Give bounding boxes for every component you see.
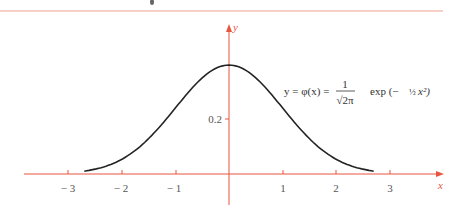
formula-numerator: 1 (342, 78, 348, 90)
formula-half: ½ (409, 87, 416, 97)
x-tick-label: − 1 (167, 182, 181, 194)
formula-annotation: y = φ(x) = 1 √2π exp (− ½ x²) (284, 78, 430, 106)
formula-denominator: √2π (336, 94, 354, 106)
formula-lhs: y = φ(x) = (284, 85, 329, 98)
x-tick-label: − 3 (61, 182, 76, 194)
x-tick-label: 1 (280, 182, 286, 194)
y-axis: 0.2 y (208, 21, 238, 205)
x-tick-label: − 2 (114, 182, 128, 194)
x-tick-label: 2 (333, 182, 339, 194)
page-mark (150, 0, 154, 5)
formula-rhs: exp (− (370, 85, 399, 98)
formula-end: x²) (417, 85, 430, 98)
y-axis-arrow-icon (226, 24, 232, 32)
x-tick-label: 3 (387, 182, 393, 194)
x-axis-label: x (437, 179, 443, 191)
x-axis: − 3 − 2 − 1 1 2 3 x (24, 170, 444, 194)
normal-density-chart: − 3 − 2 − 1 1 2 3 x 0.2 y y = φ(x) = 1 √… (0, 0, 463, 209)
y-tick-label: 0.2 (208, 113, 222, 125)
x-axis-arrow-icon (436, 171, 444, 177)
y-axis-label: y (232, 21, 238, 33)
